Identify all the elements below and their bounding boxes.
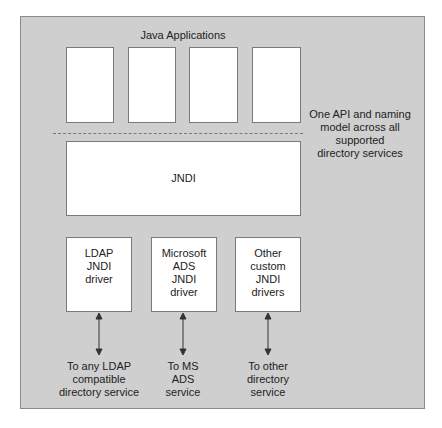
double-arrow-icon — [265, 313, 271, 355]
double-arrow-icon — [180, 313, 186, 355]
other-target-label: To other directory service — [228, 360, 308, 399]
ldap-target-label: To any LDAP compatible directory service — [49, 360, 149, 399]
ms-ads-target-label: To MS ADS service — [143, 360, 223, 399]
double-arrow-icon — [96, 313, 102, 355]
